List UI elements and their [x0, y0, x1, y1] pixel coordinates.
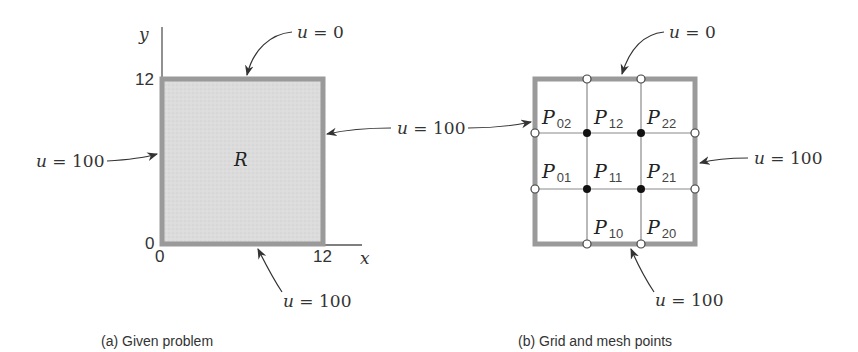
boundary-point — [637, 240, 645, 248]
boundary-point — [583, 240, 591, 248]
interior-point-p22 — [637, 129, 645, 137]
tick-y-0: 0 — [145, 234, 154, 253]
label-p21: P21 — [646, 160, 676, 185]
tick-x-0: 0 — [155, 247, 164, 266]
interior-point-p12 — [583, 129, 591, 137]
boundary-point — [637, 75, 645, 83]
tick-y-12: 12 — [135, 70, 154, 89]
boundary-point — [531, 185, 539, 193]
label-p11: P11 — [593, 160, 622, 185]
boundary-point — [691, 129, 699, 137]
interior-point-p11 — [583, 185, 591, 193]
bc-top-arrow — [247, 32, 292, 75]
axis-label-y: y — [138, 24, 149, 44]
region-label: R — [233, 149, 248, 170]
caption-a: (a) Given problem — [101, 333, 213, 349]
label-p22: P22 — [646, 106, 676, 131]
label-p02: P02 — [541, 106, 571, 131]
label-p20: P20 — [646, 216, 676, 241]
boundary-point — [691, 185, 699, 193]
bc-bottom-arrow-b — [631, 249, 654, 292]
bc-left-label: u = 100 — [36, 151, 104, 171]
panel-b: P02 P12 P22 P01 P11 P21 P10 P20 u = 0 u … — [518, 22, 822, 349]
tick-x-12: 12 — [313, 247, 332, 266]
caption-b: (b) Grid and mesh points — [518, 333, 672, 349]
bc-bottom-label: u = 100 — [283, 291, 351, 311]
bc-top-arrow-b — [622, 32, 664, 74]
boundary-points — [531, 75, 699, 248]
bc-left-arrow — [107, 154, 157, 161]
bc-shared-arrow-right — [468, 122, 531, 128]
bc-shared: u = 100 — [327, 118, 531, 138]
label-p10: P10 — [593, 216, 623, 241]
interior-point-p21 — [637, 185, 645, 193]
axis-label-x: x — [360, 248, 370, 268]
panel-a: y x 12 0 0 12 R u = 0 u = 100 u = 100 (a… — [36, 22, 370, 349]
bc-right-arrow-b — [700, 158, 748, 163]
bc-right-label-b: u = 100 — [754, 148, 822, 168]
bc-shared-label: u = 100 — [397, 118, 465, 138]
bc-top-label: u = 0 — [297, 22, 344, 42]
bc-bottom-label-b: u = 100 — [655, 290, 723, 310]
label-p12: P12 — [593, 106, 623, 131]
boundary-point — [531, 129, 539, 137]
boundary-point — [583, 75, 591, 83]
figure: y x 12 0 0 12 R u = 0 u = 100 u = 100 (a… — [0, 0, 858, 352]
grid-border — [535, 79, 695, 244]
bc-bottom-arrow — [258, 249, 282, 292]
label-p01: P01 — [541, 160, 571, 185]
bc-top-label-b: u = 0 — [669, 22, 716, 42]
bc-shared-arrow-left — [327, 128, 391, 134]
grid-lines — [535, 79, 695, 244]
